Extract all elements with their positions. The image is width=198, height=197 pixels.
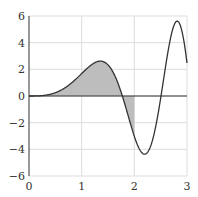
function-chart: 6420−2−4−6 0123	[0, 0, 198, 197]
x-tick-labels: 0123	[26, 180, 191, 193]
y-tick-label: −4	[9, 143, 25, 156]
y-tick-label: 0	[18, 90, 25, 103]
y-tick-label: 4	[18, 37, 25, 50]
x-tick-label: 0	[26, 180, 33, 193]
y-tick-label: −6	[9, 170, 25, 183]
x-tick-label: 2	[131, 180, 138, 193]
y-tick-label: 2	[18, 63, 25, 76]
x-tick-label: 1	[78, 180, 85, 193]
y-tick-labels: 6420−2−4−6	[9, 10, 25, 183]
y-tick-label: −2	[9, 117, 25, 130]
y-tick-label: 6	[18, 10, 25, 23]
x-tick-label: 3	[184, 180, 191, 193]
